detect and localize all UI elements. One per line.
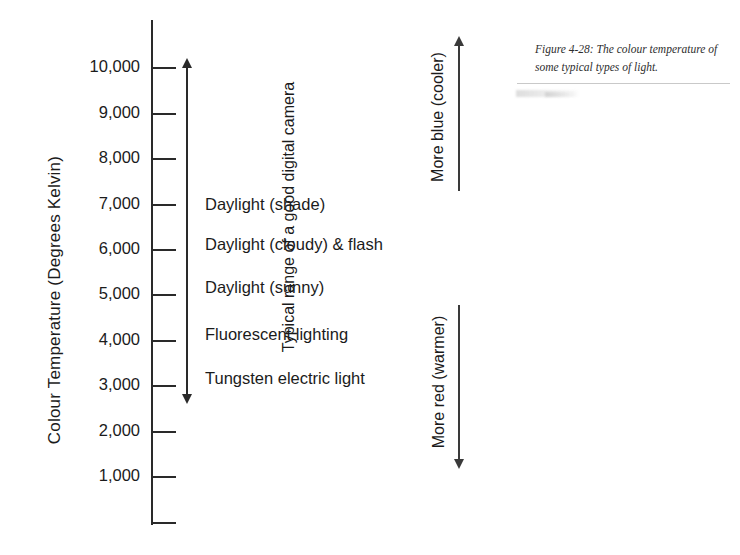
more-blue-label: More blue (cooler)	[429, 39, 447, 195]
axis-tick-label: 2,000	[48, 421, 140, 440]
axis-tick	[151, 522, 176, 524]
light-type-label: Fluorescent lighting	[205, 325, 348, 344]
axis-tick	[151, 431, 176, 433]
scan-artifact-secondary	[545, 92, 575, 97]
axis-tick-label: 7,000	[48, 194, 140, 213]
axis-tick-label: 9,000	[48, 103, 140, 122]
axis-tick	[151, 67, 176, 69]
axis-tick	[151, 204, 176, 206]
axis-tick-label: 6,000	[48, 239, 140, 258]
y-axis-line	[151, 20, 153, 525]
axis-tick	[151, 249, 176, 251]
axis-tick-label: 1,000	[48, 466, 140, 485]
axis-tick	[151, 476, 176, 478]
light-type-label: Daylight (cloudy) & flash	[205, 235, 383, 254]
more-red-label: More red (warmer)	[429, 299, 447, 464]
more-red-arrow: More red (warmer)	[458, 305, 460, 460]
axis-tick	[151, 294, 176, 296]
camera-range-arrow: Typical range of a good digital camera	[186, 67, 188, 395]
caption-divider	[517, 83, 730, 84]
axis-tick-label: 5,000	[48, 284, 140, 303]
more-blue-arrow: More blue (cooler)	[458, 45, 460, 191]
arrow-down-icon	[454, 459, 464, 469]
axis-tick	[151, 385, 176, 387]
light-type-label: Tungsten electric light	[205, 369, 365, 388]
figure-caption: Figure 4-28: The colour temperature of s…	[535, 41, 720, 77]
axis-tick	[151, 113, 176, 115]
axis-tick-label: 4,000	[48, 330, 140, 349]
light-type-label: Daylight (sunny)	[205, 278, 324, 297]
arrow-up-icon	[454, 36, 464, 46]
axis-tick-label: 3,000	[48, 375, 140, 394]
axis-tick-label: 10,000	[48, 57, 140, 76]
axis-tick	[151, 340, 176, 342]
axis-tick	[151, 158, 176, 160]
axis-tick-label: 8,000	[48, 148, 140, 167]
figure-page: Colour Temperature (Degrees Kelvin) 10,0…	[0, 0, 740, 555]
light-type-label: Daylight (shade)	[205, 195, 325, 214]
